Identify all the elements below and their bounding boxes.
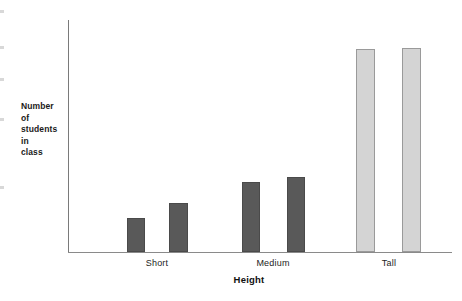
x-tick-label-medium: Medium: [242, 258, 304, 268]
x-tick-label-tall: Tall: [358, 258, 420, 268]
bar-medium-2: [287, 177, 305, 252]
bar-medium-1: [242, 182, 260, 252]
y-axis-label-line-3: students: [21, 124, 67, 136]
y-axis-label-line-1: Number: [21, 101, 67, 113]
x-axis-line: [68, 252, 452, 253]
x-axis-title: Height: [0, 274, 462, 285]
scan-artifact: [0, 46, 4, 49]
scan-artifact: [0, 10, 4, 13]
bar-short-2: [169, 203, 188, 252]
x-tick-label-short: Short: [127, 258, 187, 268]
bar-short-1: [127, 218, 145, 252]
y-axis-label-line-2: of: [21, 113, 67, 125]
bar-chart-figure: Number of students in class Short Medium…: [0, 0, 462, 301]
y-axis-label-line-4: in: [21, 136, 67, 148]
x-axis-title-text: Height: [234, 274, 265, 285]
scan-artifact: [0, 186, 4, 189]
y-axis-label-line-5: class: [21, 147, 67, 159]
scan-artifact: [0, 118, 4, 121]
y-axis-line: [68, 20, 69, 253]
bar-tall-1: [356, 49, 375, 252]
scan-artifact: [0, 78, 4, 81]
y-axis-label: Number of students in class: [21, 101, 67, 159]
bar-tall-2: [402, 48, 421, 252]
